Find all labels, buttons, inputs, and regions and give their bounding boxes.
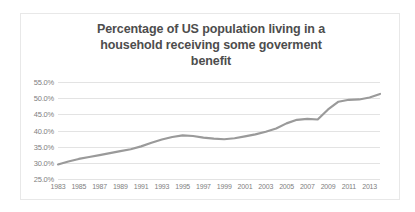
x-axis-tick-label: 1999	[217, 183, 232, 190]
y-axis-tick-label: 50.0%	[34, 94, 54, 103]
x-axis-tick-label: 2005	[279, 183, 294, 190]
x-axis-tick-label: 1993	[154, 183, 169, 190]
y-axis-tick-label: 45.0%	[34, 110, 54, 119]
x-axis-tick-label: 1989	[113, 183, 128, 190]
x-axis-tick-label: 1997	[196, 183, 211, 190]
x-axis-tick-label: 2013	[362, 183, 377, 190]
chart-title: Percentage of US population living in a …	[51, 21, 371, 69]
chart-container: Percentage of US population living in a …	[20, 13, 400, 200]
chart-title-line-1: Percentage of US population living in a	[51, 21, 371, 37]
chart-title-line-2: household receiving some goverment	[51, 37, 371, 53]
x-axis-tick-label: 2011	[342, 183, 356, 190]
x-axis-tick-label: 2001	[238, 183, 253, 190]
chart-title-line-3: benefit	[51, 53, 371, 69]
line-series	[58, 82, 380, 179]
x-axis-tick-label: 2003	[258, 183, 273, 190]
x-axis-tick-label: 1983	[51, 183, 66, 190]
x-axis-tick-label: 2007	[300, 183, 315, 190]
y-axis-tick-label: 30.0%	[34, 158, 54, 167]
x-axis-tick-label: 2009	[321, 183, 336, 190]
y-axis-tick-label: 40.0%	[34, 126, 54, 135]
x-axis-tick-label: 1995	[175, 183, 190, 190]
y-axis-tick-label: 55.0%	[34, 78, 54, 87]
x-axis-tick-label: 1991	[134, 183, 149, 190]
x-axis-tick-label: 1987	[92, 183, 107, 190]
gridline	[58, 179, 380, 180]
series-polyline	[58, 94, 380, 164]
y-axis-tick-label: 35.0%	[34, 142, 54, 151]
x-axis-tick-label: 1985	[71, 183, 86, 190]
plot-area: 55.0%50.0%45.0%40.0%35.0%30.0%25.0% 1983…	[58, 82, 380, 179]
